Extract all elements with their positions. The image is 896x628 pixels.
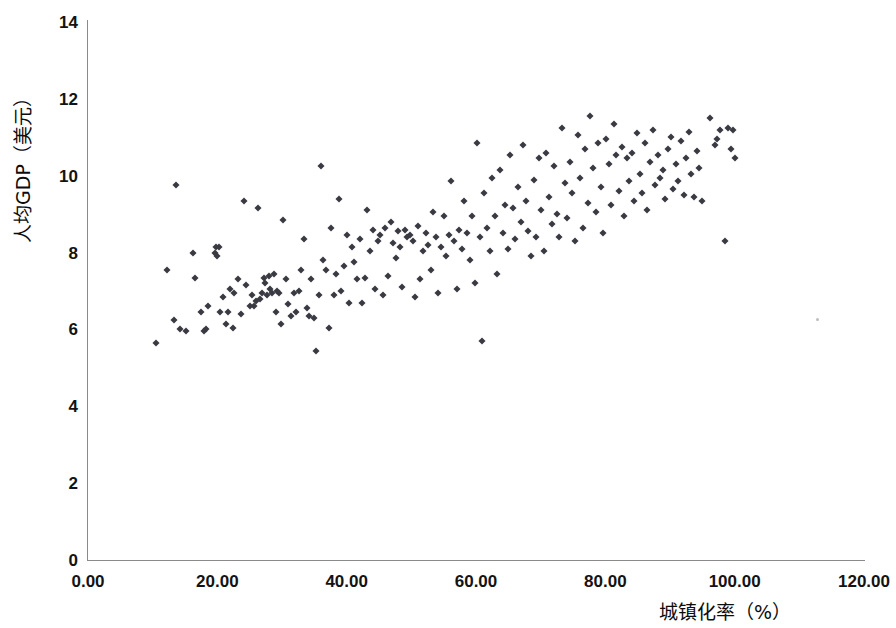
x-axis-line <box>87 560 865 561</box>
data-point-marker <box>198 309 205 316</box>
data-point-marker <box>659 166 666 173</box>
x-axis-tick-label: 0.00 <box>28 573 148 590</box>
x-axis-tick-label: 60.00 <box>416 573 536 590</box>
data-point-marker <box>683 155 690 162</box>
data-point-marker <box>646 159 653 166</box>
data-point-marker <box>412 293 419 300</box>
data-point-marker <box>280 216 287 223</box>
data-point-marker <box>458 245 465 252</box>
data-point-marker <box>248 291 255 298</box>
data-point-marker <box>343 232 350 239</box>
data-point-marker <box>615 188 622 195</box>
data-point-marker <box>479 337 486 344</box>
x-axis-tick-label: 100.00 <box>675 573 795 590</box>
data-point-marker <box>427 266 434 273</box>
data-point-marker <box>382 224 389 231</box>
data-point-marker <box>527 253 534 260</box>
data-point-marker <box>696 164 703 171</box>
data-point-marker <box>374 237 381 244</box>
y-axis-tick-label: 4 <box>38 398 78 415</box>
data-point-marker <box>517 218 524 225</box>
data-point-marker <box>587 113 594 120</box>
data-point-marker <box>641 140 648 147</box>
data-point-marker <box>348 243 355 250</box>
data-point-marker <box>310 314 317 321</box>
data-point-marker <box>670 186 677 193</box>
data-point-marker <box>432 234 439 241</box>
data-point-marker <box>491 213 498 220</box>
data-point-marker <box>438 243 445 250</box>
data-point-marker <box>430 209 437 216</box>
data-point-marker <box>425 241 432 248</box>
data-point-marker <box>507 151 514 158</box>
data-point-marker <box>276 289 283 296</box>
data-point-marker <box>192 274 199 281</box>
data-point-marker <box>535 155 542 162</box>
data-point-marker <box>351 259 358 266</box>
data-point-marker <box>584 199 591 206</box>
data-point-marker <box>657 174 664 181</box>
x-axis-tick-label: 20.00 <box>157 573 277 590</box>
data-point-marker <box>690 193 697 200</box>
data-point-marker <box>338 287 345 294</box>
data-point-marker <box>262 280 269 287</box>
x-axis-title: 城镇化率（%） <box>600 597 850 624</box>
data-point-marker <box>481 189 488 196</box>
data-point-marker <box>328 224 335 231</box>
data-point-marker <box>325 324 332 331</box>
scan-artifact-speck <box>816 318 819 321</box>
data-point-marker <box>582 145 589 152</box>
data-point-marker <box>401 226 408 233</box>
data-point-marker <box>693 147 700 154</box>
data-point-marker <box>538 207 545 214</box>
x-axis-tick-label: 80.00 <box>545 573 665 590</box>
data-point-marker <box>313 347 320 354</box>
data-point-marker <box>476 234 483 241</box>
y-axis-tick-labels: 02468101214 <box>30 0 78 628</box>
data-point-marker <box>282 276 289 283</box>
data-point-marker <box>474 140 481 147</box>
data-point-marker <box>597 184 604 191</box>
data-point-marker <box>685 128 692 135</box>
data-point-marker <box>419 247 426 254</box>
data-point-marker <box>636 170 643 177</box>
data-point-marker <box>564 214 571 221</box>
data-point-marker <box>509 205 516 212</box>
data-point-marker <box>621 213 628 220</box>
data-point-marker <box>600 230 607 237</box>
data-point-marker <box>530 176 537 183</box>
data-point-marker <box>379 291 386 298</box>
data-point-marker <box>224 309 231 316</box>
data-point-marker <box>483 224 490 231</box>
data-point-marker <box>240 197 247 204</box>
data-point-marker <box>602 136 609 143</box>
data-point-marker <box>543 149 550 156</box>
data-point-marker <box>356 236 363 243</box>
data-point-marker <box>496 166 503 173</box>
data-point-marker <box>644 207 651 214</box>
data-point-marker <box>579 224 586 231</box>
data-point-marker <box>540 247 547 254</box>
data-point-marker <box>471 280 478 287</box>
data-point-marker <box>272 309 279 316</box>
data-point-marker <box>443 253 450 260</box>
data-point-marker <box>712 141 719 148</box>
data-point-marker <box>364 207 371 214</box>
data-point-marker <box>717 126 724 133</box>
data-point-marker <box>346 299 353 306</box>
data-point-marker <box>387 218 394 225</box>
data-point-marker <box>234 276 241 283</box>
data-point-marker <box>654 151 661 158</box>
data-point-marker <box>652 182 659 189</box>
data-point-marker <box>461 197 468 204</box>
data-point-marker <box>330 291 337 298</box>
data-point-marker <box>229 324 236 331</box>
data-point-marker <box>631 197 638 204</box>
data-point-marker <box>163 266 170 273</box>
data-point-marker <box>499 230 506 237</box>
data-point-marker <box>665 145 672 152</box>
data-point-marker <box>595 140 602 147</box>
data-point-marker <box>525 228 532 235</box>
y-axis-tick-label: 8 <box>38 244 78 261</box>
data-point-marker <box>361 274 368 281</box>
